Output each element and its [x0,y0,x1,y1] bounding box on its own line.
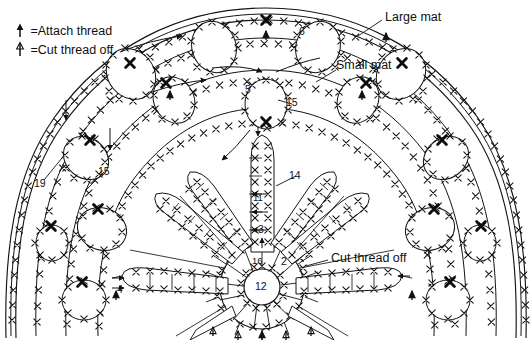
petal-right-horizontal [296,268,412,295]
mat-large [185,15,243,78]
legend-row-cut: =Cut thread off [14,41,113,57]
row-number-12: 12 [255,281,267,292]
row-number-14: 14 [289,170,301,181]
row-number-19: 19 [34,178,46,189]
row-number-5: 5 [245,84,251,95]
row-number-16: 16 [252,256,263,266]
petal-left-horizontal [112,268,228,295]
legend-label-attach: Attach thread [38,24,112,38]
row-number-4: 4 [117,284,123,295]
legend-equals-attach: = [30,24,37,38]
callout-cut-thread-off: Cut thread off [331,252,407,265]
row-number-3: 3 [258,224,264,235]
diagram-canvas: =Attach thread =Cut thread off Large mat… [0,0,532,340]
attach-thread-symbol [14,22,26,38]
row-number-15-center: 15 [286,97,298,108]
petal-group [112,135,412,340]
row-number-6: 6 [299,26,305,37]
callout-large-mat: Large mat [385,11,441,24]
cut-thread-symbol [14,41,26,57]
legend-label-cut: Cut thread off [38,43,114,57]
row-number-15-left: 15 [98,166,110,177]
callout-small-mat: Small mat [336,59,392,72]
row-number-2: 2 [281,256,287,267]
legend-row-attach: =Attach thread [14,22,112,38]
legend-equals-cut: = [30,43,37,57]
mat-small [399,201,460,258]
row-number-11: 11 [253,193,263,203]
